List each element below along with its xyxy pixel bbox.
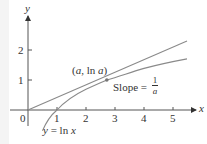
x-tick-1: 1 (54, 113, 60, 124)
slope-denominator: a (151, 87, 159, 96)
y-ticks (28, 50, 32, 80)
y-axis-label: y (25, 3, 30, 14)
point-label: (a, ln a) (72, 65, 107, 76)
x-tick-4: 4 (141, 113, 147, 124)
y-tick-2: 2 (18, 45, 24, 56)
x-axis-label: x (199, 103, 204, 114)
x-tick-5: 5 (170, 113, 176, 124)
x-tick-3: 3 (112, 113, 118, 124)
slope-label: Slope = (113, 82, 147, 93)
x-tick-0: 0 (20, 113, 26, 124)
curve-label: y = ln x (43, 125, 76, 136)
slope-numerator: 1 (151, 76, 159, 85)
y-tick-1: 1 (18, 75, 24, 86)
tangent-point (105, 78, 109, 82)
tangent-line (28, 41, 187, 110)
x-tick-2: 2 (83, 113, 89, 124)
